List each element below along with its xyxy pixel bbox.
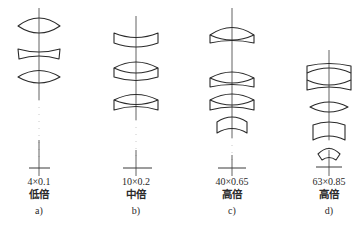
panel-a-lens-stack	[18, 8, 60, 176]
panel-b-lens-stack	[114, 16, 158, 176]
panel-c-lens-stack	[210, 8, 254, 176]
panel-c-caption: 40×0.65 高倍 c)	[197, 177, 267, 216]
magnification-class: 高倍	[197, 189, 267, 201]
panel-a-caption: 4×0.1 低倍 a)	[4, 177, 74, 216]
panel-b-caption: 10×0.2 中倍 b)	[101, 177, 171, 216]
panel-tag: c)	[197, 206, 267, 216]
magnification-class: 中倍	[101, 189, 171, 201]
objective-spec: 40×0.65	[197, 177, 267, 188]
objective-spec: 63×0.85	[294, 177, 361, 188]
panel-d-caption: 63×0.85 高倍 d)	[294, 177, 361, 216]
panel-d-lens-stack	[307, 50, 351, 176]
objective-spec: 4×0.1	[4, 177, 74, 188]
panel-tag: d)	[294, 206, 361, 216]
panel-tag: a)	[4, 206, 74, 216]
magnification-class: 高倍	[294, 189, 361, 201]
magnification-class: 低倍	[4, 189, 74, 201]
panel-tag: b)	[101, 206, 171, 216]
objective-spec: 10×0.2	[101, 177, 171, 188]
